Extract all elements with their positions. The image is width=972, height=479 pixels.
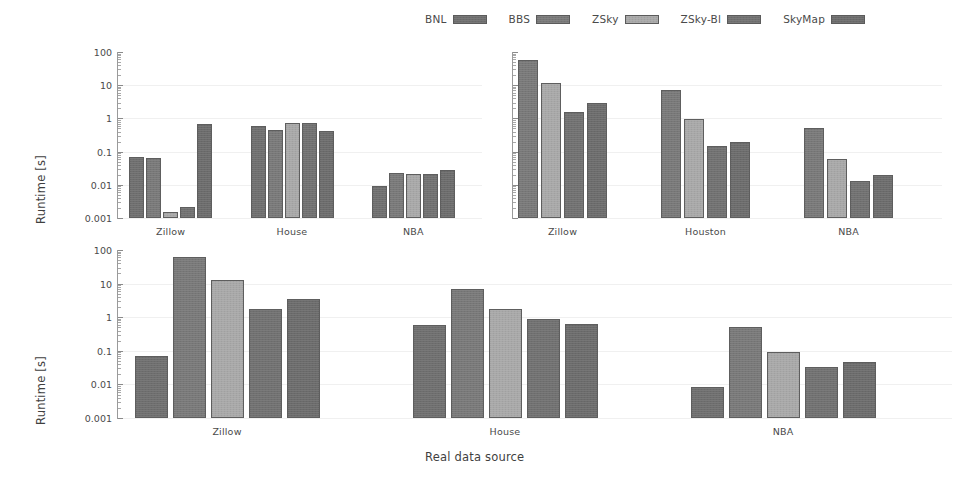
hatch-texture [147, 159, 160, 217]
y-axis-tick-label: 0.1 [74, 146, 112, 157]
y-axis-tick-label: 10 [74, 80, 112, 91]
hatch-texture [565, 113, 583, 217]
hatch-texture [212, 281, 243, 417]
hatch-texture [728, 16, 760, 23]
panel-skyline: Runtime [s] Skyline 1001010.10.010.001Zi… [0, 34, 490, 246]
y-axis-minor-tick [513, 202, 516, 203]
hatch-texture [130, 158, 143, 217]
bar-skymap-house [565, 324, 598, 419]
bar-zsky-bl-nba [805, 367, 838, 418]
y-axis-minor-tick [118, 122, 121, 123]
y-axis-minor-tick [118, 356, 121, 357]
y-axis-minor-tick [118, 124, 121, 125]
y-axis-tick-label: 0.01 [74, 379, 112, 390]
legend-swatch [625, 15, 659, 24]
hatch-texture [303, 124, 316, 217]
y-axis-minor-tick [513, 62, 516, 63]
bar-zsky-zillow [211, 280, 244, 418]
y-axis-minor-tick [513, 93, 516, 94]
y-axis-minor-tick [118, 98, 121, 99]
x-axis-tick-label: NBA [773, 426, 794, 437]
y-axis-minor-tick [513, 155, 516, 156]
hatch-texture [768, 353, 799, 417]
y-axis-minor-tick [513, 128, 516, 129]
legend-label: ZSky-Bl [681, 13, 722, 25]
hatch-texture [288, 300, 319, 417]
gridline [513, 85, 942, 86]
x-axis-tick-label: Zillow [212, 426, 241, 437]
bar-bnl-zillow [135, 356, 168, 418]
hatch-texture [626, 16, 658, 23]
y-axis-minor-tick [118, 169, 121, 170]
y-axis-minor-tick [118, 57, 121, 58]
y-axis-minor-tick [118, 208, 121, 209]
bar-bbs-house [451, 289, 484, 418]
legend-label: SkyMap [783, 13, 825, 25]
y-axis-minor-tick [118, 398, 121, 399]
bar-skymap-zillow [287, 299, 320, 418]
legend-entry-zsky[interactable]: ZSky [592, 13, 659, 25]
y-axis-minor-tick [118, 386, 121, 387]
gridline [118, 418, 952, 419]
y-axis-minor-tick [513, 87, 516, 88]
y-axis-minor-tick [118, 354, 121, 355]
hatch-texture [454, 16, 486, 23]
gridline [513, 218, 942, 219]
y-axis-minor-tick [118, 153, 121, 154]
hatch-texture [390, 174, 403, 217]
bar-skymap-nba [440, 170, 455, 218]
legend-entry-bbs[interactable]: BBS [509, 13, 571, 25]
bar-zsky-bl-zillow [249, 309, 282, 418]
y-axis-minor-tick [118, 188, 121, 189]
hatch-texture [806, 368, 837, 417]
y-axis-minor-tick [118, 341, 121, 342]
y-axis-minor-tick [118, 165, 121, 166]
y-axis-minor-tick [118, 192, 121, 193]
y-axis-minor-tick [118, 402, 121, 403]
y-axis-minor-tick [118, 307, 121, 308]
bar-zsky-bl-nba [423, 174, 438, 218]
y-axis-minor-tick [118, 132, 121, 133]
legend-entry-zsky-bl[interactable]: ZSky-Bl [681, 13, 762, 25]
y-axis-minor-tick [118, 75, 121, 76]
hatch-texture [424, 175, 437, 217]
legend-swatch [453, 15, 487, 24]
y-axis-minor-tick [118, 120, 121, 121]
bar-bnl-house [413, 325, 446, 418]
legend-entry-bnl[interactable]: BNL [425, 13, 487, 25]
y-axis-minor-tick [118, 195, 121, 196]
y-axis-tick-label: 0.01 [74, 179, 112, 190]
hatch-texture [805, 129, 823, 217]
y-axis-minor-tick [118, 361, 121, 362]
figure-root: BNLBBSZSkyZSky-BlSkyMap Runtime [s] Skyl… [0, 0, 972, 479]
y-axis-minor-tick [118, 297, 121, 298]
y-axis-minor-tick [513, 69, 516, 70]
y-axis-minor-tick [513, 162, 516, 163]
y-axis-minor-tick [118, 325, 121, 326]
hatch-texture [874, 176, 892, 217]
y-axis-minor-tick [118, 255, 121, 256]
legend-swatch [727, 15, 761, 24]
legend-label: BNL [425, 13, 447, 25]
y-axis-minor-tick [513, 208, 516, 209]
legend-entry-skymap[interactable]: SkyMap [783, 13, 865, 25]
bar-bbs-nba [804, 128, 824, 218]
y-axis-minor-tick [118, 155, 121, 156]
bar-zsky-bl-zillow [180, 207, 195, 218]
y-axis-minor-tick [513, 90, 516, 91]
hatch-texture [685, 120, 703, 217]
y-axis-minor-tick [513, 54, 516, 55]
y-axis-minor-tick [118, 108, 121, 109]
x-axis-label: Real data source [425, 450, 524, 464]
hatch-texture [490, 310, 521, 417]
bar-bbs-zillow [146, 158, 161, 218]
y-axis-minor-tick [118, 358, 121, 359]
y-axis-minor-tick [118, 87, 121, 88]
y-axis-minor-tick [118, 291, 121, 292]
bar-skymap-zillow [197, 124, 212, 218]
y-axis-tick-label: 0.001 [74, 213, 112, 224]
y-axis-minor-tick [118, 253, 121, 254]
hatch-texture [708, 147, 726, 217]
y-axis-minor-tick [513, 95, 516, 96]
hatch-texture [542, 84, 560, 217]
